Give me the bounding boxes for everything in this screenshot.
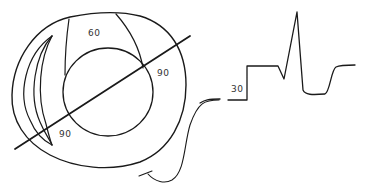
label-90-left: 90 [59, 129, 71, 139]
label-90-right: 90 [157, 68, 169, 78]
label-60: 60 [88, 28, 100, 38]
septum-left-boundary [65, 19, 69, 75]
inner-cavity-circle [63, 48, 153, 136]
catheter-tip [139, 171, 152, 176]
diagram-canvas: 60 90 90 30 [0, 0, 365, 193]
label-30-waveform: 30 [231, 84, 243, 94]
pressure-waveform [200, 12, 355, 103]
catheter-path [148, 100, 219, 182]
heart-diagram: 60 90 90 30 [0, 0, 365, 193]
